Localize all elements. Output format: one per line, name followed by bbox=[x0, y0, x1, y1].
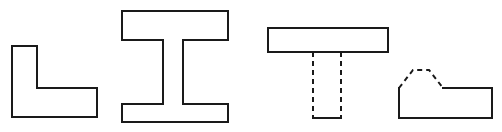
canvas-background bbox=[0, 0, 502, 132]
engineering-drawing-canvas bbox=[0, 0, 502, 132]
